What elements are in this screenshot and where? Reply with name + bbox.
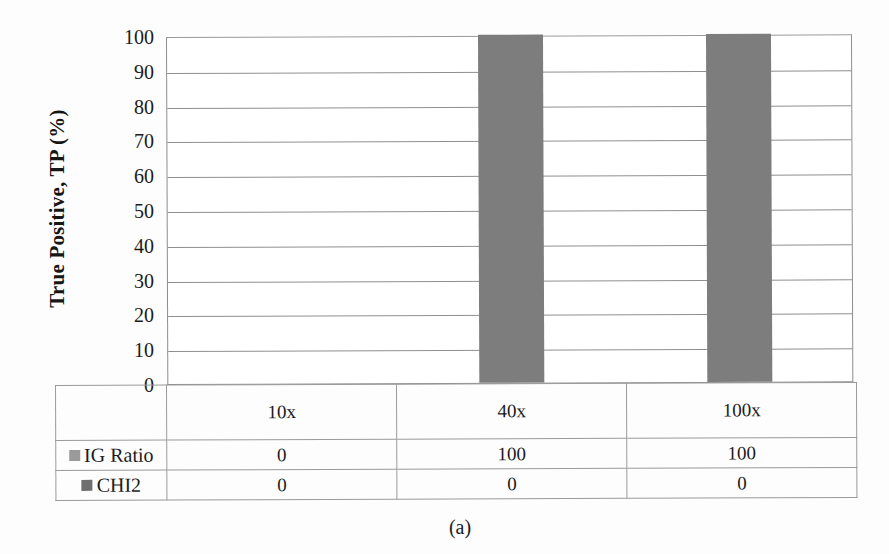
legend-swatch-icon — [69, 450, 80, 461]
category-cell-10x: 10x — [167, 384, 397, 440]
value-cell: 0 — [167, 469, 397, 500]
figure-caption: (a) — [0, 516, 889, 539]
figure-container: True Positive, TP (%) 100908070605040302… — [0, 0, 889, 554]
table-row-series-1: CHI2 000 — [56, 467, 857, 500]
y-tick-label: 40 — [96, 236, 154, 256]
legend-swatch-icon — [82, 480, 93, 491]
value-cell: 0 — [627, 467, 857, 498]
data-table: 10x40x100x IG Ratio 0100100 CHI2 000 — [55, 382, 857, 501]
y-tick-label: 100 — [96, 27, 154, 47]
value-cell: 0 — [397, 468, 627, 499]
value-cell: 100 — [397, 438, 627, 469]
legend-label: CHI2 — [97, 474, 142, 496]
bar-ig-ratio-40x — [478, 35, 544, 383]
value-cell: 0 — [167, 439, 397, 470]
y-axis-title: True Positive, TP (%) — [45, 64, 70, 354]
value-cell: 100 — [627, 437, 857, 468]
category-cell-100x: 100x — [626, 382, 856, 438]
legend-label: IG Ratio — [84, 444, 154, 466]
y-tick-label: 50 — [96, 201, 154, 221]
table-corner-cell — [56, 385, 167, 440]
table-row-series-0: IG Ratio 0100100 — [56, 437, 857, 470]
y-tick-label: 60 — [96, 166, 154, 186]
data-table-body: 10x40x100x IG Ratio 0100100 CHI2 000 — [56, 382, 857, 500]
y-tick-label: 10 — [96, 340, 154, 360]
y-tick-label: 30 — [96, 271, 154, 291]
y-tick-label: 70 — [96, 131, 154, 151]
chart-data-table: 10x40x100x IG Ratio 0100100 CHI2 000 — [55, 382, 852, 500]
legend-cell-series-0: IG Ratio — [56, 440, 167, 470]
y-tick-label: 20 — [96, 305, 154, 325]
y-axis-tick-labels: 1009080706050403020100 — [96, 28, 154, 396]
y-tick-label: 80 — [96, 97, 154, 117]
table-row-categories: 10x40x100x — [56, 382, 857, 440]
legend-cell-series-1: CHI2 — [56, 470, 167, 500]
plot-area — [166, 34, 853, 385]
category-cell-40x: 40x — [396, 383, 626, 439]
bar-ig-ratio-100x — [706, 34, 772, 382]
y-tick-label: 90 — [96, 62, 154, 82]
